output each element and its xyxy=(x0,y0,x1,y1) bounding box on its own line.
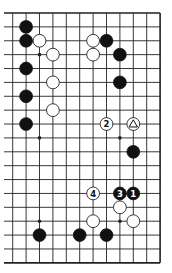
black-stone-icon xyxy=(127,145,140,158)
white-stone xyxy=(87,34,100,47)
white-stone-icon xyxy=(127,215,140,228)
white-stone xyxy=(47,48,60,61)
white-stone: 4 xyxy=(87,187,100,200)
white-stone xyxy=(127,215,140,228)
white-stone xyxy=(127,118,140,131)
move-number-label: 4 xyxy=(90,189,96,199)
white-stone-icon xyxy=(87,48,100,61)
white-stone xyxy=(87,48,100,61)
black-stone xyxy=(114,76,127,89)
white-stone xyxy=(47,104,60,117)
star-point xyxy=(38,136,42,140)
black-stone-icon xyxy=(33,229,46,242)
black-stone xyxy=(114,48,127,61)
black-stone-icon xyxy=(20,90,33,103)
black-stone xyxy=(100,34,113,47)
black-stone xyxy=(73,229,86,242)
white-stone-icon xyxy=(114,201,127,214)
move-number-label: 1 xyxy=(130,189,136,199)
black-stone: 3 xyxy=(114,187,127,200)
move-number-label: 2 xyxy=(104,119,110,129)
white-stone-icon xyxy=(47,76,60,89)
black-stone xyxy=(20,118,33,131)
white-stone xyxy=(33,34,46,47)
black-stone: 1 xyxy=(127,187,140,200)
black-stone-icon xyxy=(114,48,127,61)
go-board: 2431 xyxy=(0,0,172,273)
go-board-diagram: 2431 xyxy=(0,0,172,273)
star-point xyxy=(118,136,122,140)
black-stone xyxy=(20,90,33,103)
black-stone-icon xyxy=(20,118,33,131)
black-stone-icon xyxy=(73,229,86,242)
white-stone xyxy=(87,215,100,228)
white-stone-icon xyxy=(47,104,60,117)
star-point xyxy=(38,53,42,57)
black-stone-icon xyxy=(20,20,33,33)
black-stone xyxy=(20,34,33,47)
black-stone-icon xyxy=(100,229,113,242)
white-stone-icon xyxy=(47,48,60,61)
white-stone xyxy=(47,76,60,89)
black-stone xyxy=(33,229,46,242)
star-point xyxy=(38,219,42,223)
black-stone xyxy=(20,20,33,33)
black-stone xyxy=(20,62,33,75)
black-stone-icon xyxy=(20,34,33,47)
white-stone-icon xyxy=(87,215,100,228)
black-stone xyxy=(100,229,113,242)
move-number-label: 3 xyxy=(117,189,123,199)
black-stone-icon xyxy=(114,76,127,89)
white-stone-icon xyxy=(33,34,46,47)
white-stone xyxy=(114,201,127,214)
star-point xyxy=(118,219,122,223)
black-stone xyxy=(127,145,140,158)
white-stone: 2 xyxy=(100,118,113,131)
black-stone-icon xyxy=(100,34,113,47)
white-stone-icon xyxy=(87,34,100,47)
black-stone-icon xyxy=(20,62,33,75)
